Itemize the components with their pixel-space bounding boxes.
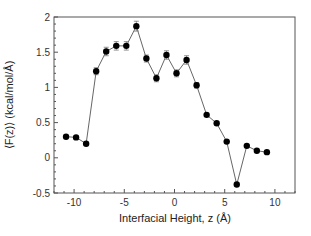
- data-series: [63, 21, 270, 188]
- data-point-marker: [244, 143, 250, 149]
- data-point-marker: [93, 68, 99, 74]
- data-point-marker: [224, 138, 230, 144]
- data-point-marker: [173, 70, 179, 76]
- data-point-marker: [63, 133, 69, 139]
- y-tick-label: 1: [44, 82, 50, 93]
- x-axis-ticks: -10-50510: [54, 189, 295, 208]
- data-point-marker: [153, 75, 159, 81]
- data-point-marker: [213, 120, 219, 126]
- data-point-marker: [113, 43, 119, 49]
- data-point-marker: [73, 134, 79, 140]
- y-tick-label: -0.5: [33, 188, 51, 199]
- x-tick-label: 5: [222, 197, 228, 208]
- plot-frame: [54, 17, 295, 193]
- data-point-marker: [183, 57, 189, 63]
- line-chart: -10-50510 -0.500.511.52 Interfacial Heig…: [0, 0, 311, 236]
- y-tick-label: 0: [44, 152, 50, 163]
- data-point-marker: [143, 55, 149, 61]
- data-point-marker: [123, 43, 129, 49]
- data-point-marker: [203, 112, 209, 118]
- data-point-marker: [193, 82, 199, 88]
- x-tick-label: 10: [269, 197, 281, 208]
- data-point-marker: [83, 141, 89, 147]
- data-point-marker: [103, 48, 109, 54]
- x-axis-title: Interfacial Height, z (Å): [119, 212, 231, 224]
- series-line: [66, 26, 267, 184]
- data-point-marker: [254, 148, 260, 154]
- y-tick-label: 1.5: [36, 47, 50, 58]
- x-tick-label: 0: [172, 197, 178, 208]
- data-point-marker: [133, 23, 139, 29]
- data-point-marker: [163, 52, 169, 58]
- y-tick-label: 0.5: [36, 117, 50, 128]
- y-axis-title: ⟨F(z)⟩ (kcal/mol/Å): [3, 61, 15, 150]
- data-point-marker: [234, 181, 240, 187]
- data-point-marker: [264, 149, 270, 155]
- x-tick-label: -10: [67, 197, 82, 208]
- y-tick-label: 2: [44, 12, 50, 23]
- x-tick-label: -5: [120, 197, 129, 208]
